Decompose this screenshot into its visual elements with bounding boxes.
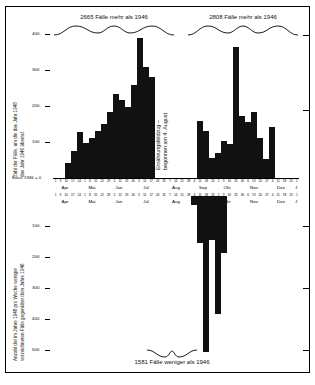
upper-bar-series xyxy=(53,33,299,178)
lower-plot-area xyxy=(53,196,299,361)
month-label-nov: Nov xyxy=(239,185,269,190)
upper-ylabel-line2: das Jahr 1946 überraf. xyxy=(21,31,26,177)
month-labels-top: AprMaiJunJulAugSepOktNovDezJ xyxy=(53,185,299,190)
bar xyxy=(65,163,70,178)
bar xyxy=(149,77,154,178)
bar xyxy=(269,127,274,178)
lower-ytickmark-300 xyxy=(45,288,50,289)
month-label-jul: Jul xyxy=(131,185,161,190)
upper-ytick-300: 300 xyxy=(32,67,39,72)
bar xyxy=(227,144,232,178)
lower-ytick-400: 400 xyxy=(32,316,39,321)
bar xyxy=(239,116,244,178)
bar xyxy=(209,196,214,240)
lower-ytickmark-200 xyxy=(45,257,50,258)
bar xyxy=(215,153,220,178)
bar xyxy=(209,158,214,178)
bar xyxy=(113,94,118,178)
lower-ytickmark-400 xyxy=(45,319,50,320)
week-tick-label: 1 xyxy=(294,179,299,183)
month-label-aug: Aug xyxy=(161,185,191,190)
upper-ytick-200: 200 xyxy=(32,103,39,108)
caption-bottom: 1581 Fälle weniger als 1946 xyxy=(112,359,232,365)
bar xyxy=(221,196,226,253)
bar xyxy=(203,196,208,352)
upper-ytick-100: 100 xyxy=(32,139,39,144)
caption-top-right: 2808 Fälle mehr als 1946 xyxy=(184,14,302,20)
month-label-okt: Okt xyxy=(215,185,239,190)
month-label-sep: Sep xyxy=(191,185,215,190)
lower-ylabel-line2: verzeichneten Fälle gegenüber dem Jahre … xyxy=(21,203,26,361)
bar xyxy=(131,85,136,178)
bar xyxy=(191,196,196,205)
chart-page: 2665 Fälle mehr als 1946 2808 Fälle mehr… xyxy=(0,0,315,385)
upper-ytickmark-300 xyxy=(45,70,50,71)
bar xyxy=(143,67,148,178)
bar xyxy=(83,143,88,178)
annotation-line2: begonnen am 4. August xyxy=(163,65,169,170)
caption-top-left: 2665 Fälle mehr als 1946 xyxy=(54,14,174,20)
bar xyxy=(203,131,208,178)
bar xyxy=(137,38,142,178)
bar xyxy=(233,47,238,179)
lower-ylabel-line1: Anzahl der im Jahre 1948 pro Woche wenig… xyxy=(14,203,19,361)
lower-ytick-500: 500 xyxy=(32,347,39,352)
bar xyxy=(197,121,202,178)
lower-bar-series xyxy=(53,196,299,361)
upper-ytickmark-400 xyxy=(45,34,50,35)
annotation-line1: Ernährungsfeldzug – xyxy=(156,65,162,170)
bar xyxy=(197,196,202,243)
upper-plot-area xyxy=(53,33,299,178)
lower-ytickmark-500 xyxy=(45,350,50,351)
week-tick-labels-top: 1310172418152229512192631017243171421284… xyxy=(53,179,299,183)
bar xyxy=(215,196,220,314)
bar xyxy=(119,100,124,178)
bar xyxy=(107,112,112,178)
bar xyxy=(263,159,268,178)
month-label-apr: Apr xyxy=(53,185,77,190)
baseline-label: Basis 1946 = 0 xyxy=(12,175,41,180)
month-label-dez: Dez xyxy=(269,185,293,190)
upper-ylabel-line1: Zahl der Fälle, um die das Jahr 1948 xyxy=(14,31,19,177)
upper-ytick-400: 400 xyxy=(32,31,39,36)
bar xyxy=(71,151,76,178)
bar xyxy=(89,138,94,178)
bar xyxy=(77,132,82,178)
bar xyxy=(95,131,100,178)
lower-ytick-200: 200 xyxy=(32,254,39,259)
month-label-mai: Mai xyxy=(77,185,107,190)
bar xyxy=(251,112,256,178)
bar xyxy=(101,124,106,178)
upper-ytickmark-100 xyxy=(45,142,50,143)
bar xyxy=(245,122,250,178)
month-label-j: J xyxy=(293,185,299,190)
lower-ytick-300: 300 xyxy=(32,285,39,290)
bar xyxy=(125,107,130,178)
lower-ytick-100: 100 xyxy=(32,223,39,228)
chart-frame: 2665 Fälle mehr als 1946 2808 Fälle mehr… xyxy=(5,6,310,373)
upper-ytickmark-200 xyxy=(45,106,50,107)
bar xyxy=(257,138,262,178)
brace-bottom xyxy=(146,349,198,359)
lower-ytickmark-100 xyxy=(45,226,50,227)
month-label-jun: Jun xyxy=(107,185,131,190)
bar xyxy=(221,141,226,178)
